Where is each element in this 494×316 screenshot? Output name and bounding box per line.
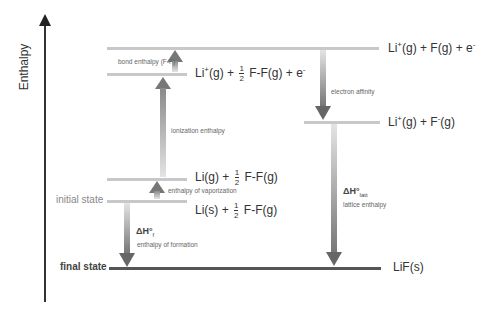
electron-affinity-label: electron affinity [331, 88, 375, 95]
state-final: LiF(s) [393, 260, 424, 274]
formation-symbol: ΔH°f [136, 226, 154, 238]
state-gas: Li(g) + 12 F-F(g) [195, 168, 278, 187]
ionization-label: ionization enthalpy [171, 127, 225, 134]
fraction: 12 [234, 201, 238, 220]
state-ionized: Li+(g) + 12 F-F(g) + e- [195, 64, 306, 83]
electron-affinity-arrow [320, 50, 326, 120]
level-gas-line [107, 178, 187, 181]
lattice-label: lattice enthalpy [343, 201, 386, 208]
final-state-label: final state [60, 261, 107, 272]
initial-state-label: initial state [56, 194, 103, 205]
level-top-line [107, 47, 379, 50]
fraction: 12 [235, 168, 239, 187]
axis-arrow-icon [39, 14, 51, 26]
state-ion-atom: Li+(g) + F-(g) [388, 114, 455, 129]
bond-enthalpy-label: bond enthalpy (F-F) [118, 58, 175, 65]
arrow-down-icon [326, 252, 342, 266]
arrow-down-icon [315, 106, 331, 120]
vaporization-arrow [154, 181, 160, 199]
lattice-arrow [331, 124, 337, 266]
fraction: 12 [239, 64, 243, 83]
enthalpy-axis [44, 22, 46, 302]
arrow-down-icon [119, 253, 135, 267]
vaporization-label: enthalpy of vaporization [168, 187, 237, 194]
level-initial-line [107, 200, 187, 203]
level-ionized-line [107, 73, 187, 76]
state-top: Li+(g) + F(g) + e- [388, 40, 475, 55]
state-initial: Li(s) + 12 F-F(g) [195, 201, 277, 220]
lattice-symbol: ΔH°latt [343, 186, 368, 198]
level-ion-atom-line [304, 121, 380, 124]
formation-label: enthalpy of formation [137, 241, 198, 248]
axis-label: Enthalpy [17, 37, 31, 97]
ionization-arrow [160, 77, 166, 177]
formation-arrow [124, 203, 130, 266]
level-final-line [109, 267, 381, 270]
